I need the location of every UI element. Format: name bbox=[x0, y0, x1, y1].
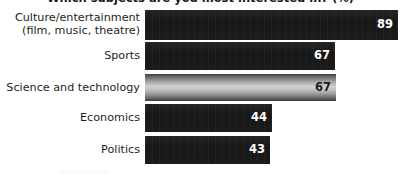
bar-track-science-and-technology: 67 bbox=[145, 74, 336, 101]
bar-track-culture-entertainment: 89 bbox=[145, 10, 398, 40]
bar-row-science-and-technology: Science and technology 67 bbox=[0, 74, 401, 101]
bar-label-politics: Politics bbox=[101, 143, 140, 156]
bar-culture-entertainment: 89 bbox=[145, 10, 398, 40]
bar-track-politics: 43 bbox=[145, 136, 270, 164]
bar-science-and-technology: 67 bbox=[145, 74, 336, 101]
bar-label-culture-entertainment: Culture/entertainment (film, music, thea… bbox=[15, 11, 140, 37]
bar-label-sports: Sports bbox=[104, 49, 140, 62]
bar-economics: 44 bbox=[145, 104, 272, 132]
bar-sports: 67 bbox=[145, 42, 335, 70]
bar-row-sports: Sports 67 bbox=[0, 42, 401, 70]
bar-label-economics: Economics bbox=[80, 111, 140, 124]
bar-value-politics: 43 bbox=[249, 144, 265, 156]
bar-value-science-and-technology: 67 bbox=[315, 82, 331, 94]
bar-value-culture-entertainment: 89 bbox=[377, 19, 393, 31]
scan-artifact bbox=[58, 170, 110, 175]
bar-chart: Which subjects are you most interested i… bbox=[0, 0, 401, 179]
plot-area: Culture/entertainment (film, music, thea… bbox=[0, 0, 401, 179]
bar-label-science-and-technology: Science and technology bbox=[6, 81, 140, 94]
bar-value-sports: 67 bbox=[314, 50, 330, 62]
bar-value-economics: 44 bbox=[251, 112, 267, 124]
bar-row-politics: Politics 43 bbox=[0, 136, 401, 164]
bar-row-economics: Economics 44 bbox=[0, 104, 401, 132]
bar-politics: 43 bbox=[145, 136, 270, 164]
bar-track-economics: 44 bbox=[145, 104, 272, 132]
bar-track-sports: 67 bbox=[145, 42, 335, 70]
bar-row-culture-entertainment: Culture/entertainment (film, music, thea… bbox=[0, 10, 401, 40]
